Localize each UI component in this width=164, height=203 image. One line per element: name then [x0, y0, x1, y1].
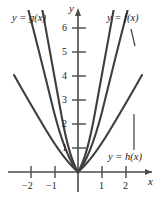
curve-label-g: y = g(x) [12, 13, 46, 24]
y-tick-label-1: 1 [62, 143, 67, 153]
y-tick-label-5: 5 [62, 47, 67, 57]
x-tick-label--2: −2 [22, 181, 33, 191]
x-tick-label-2: 2 [123, 181, 128, 191]
y-tick-label-6: 6 [62, 23, 67, 33]
y-tick-label-4: 4 [62, 71, 67, 81]
y-axis-label: y [69, 3, 74, 14]
parabola-family-figure [0, 0, 164, 203]
y-tick-label-3: 3 [62, 95, 67, 105]
y-tick-label-2: 2 [62, 119, 67, 129]
curve-label-f: y = f(x) [107, 13, 139, 24]
x-tick-label--1: −1 [46, 181, 57, 191]
curve-label-h: y = h(x) [108, 152, 142, 163]
x-tick-label-1: 1 [99, 181, 104, 191]
x-axis-label: x [148, 176, 153, 187]
